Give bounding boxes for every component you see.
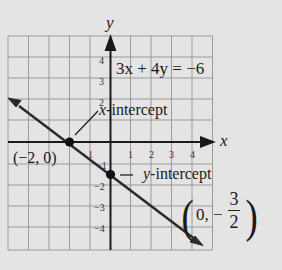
y-tick-4: 4: [99, 56, 104, 66]
y-tick-neg4: −4: [94, 224, 105, 234]
open-paren: (: [182, 194, 194, 240]
y-intercept-coord-prefix: 0, −: [196, 206, 223, 223]
y-intercept-point: [106, 170, 115, 179]
x-tick-1: 1: [128, 150, 133, 160]
x-tick-neg1: 1: [88, 150, 93, 160]
y-intercept-fraction: 3 2: [228, 190, 240, 231]
x-intercept-coordinates: (−2, 0): [13, 150, 57, 166]
x-axis-arrow-icon: [201, 138, 213, 147]
x-tick-2: 2: [149, 150, 154, 160]
y-intercept-text: -intercept: [150, 165, 211, 182]
x-intercept-annotation: x-intercept: [99, 102, 167, 118]
x-tick-3: 3: [169, 150, 174, 160]
x-axis-label: x: [220, 132, 228, 149]
close-paren: ): [246, 194, 258, 240]
y-tick-3: 3: [99, 77, 104, 87]
fraction-denominator: 2: [230, 213, 239, 231]
fraction-bar: [228, 210, 240, 211]
x-tick-4: 4: [190, 150, 195, 160]
y-tick-neg3: −3: [94, 203, 105, 213]
y-axis-arrow-icon: [106, 37, 115, 50]
y-tick-neg2: −2: [94, 182, 105, 192]
fraction-numerator: 3: [230, 190, 239, 208]
y-axis-label: y: [106, 14, 114, 31]
x-intercept-text: -intercept: [106, 101, 167, 118]
x-intercept-point: [65, 137, 74, 146]
y-intercept-annotation: y-intercept: [143, 166, 211, 182]
y-tick-neg1: −1: [96, 161, 107, 171]
equation-label: 3x + 4y = −6: [116, 60, 204, 77]
